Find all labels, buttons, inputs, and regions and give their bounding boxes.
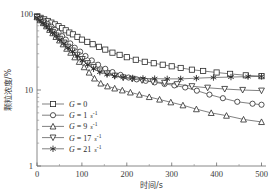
particle-concentration-chart: 0100200300400500110100 时间/s颗粒浓度/% G = 0G… [0,0,277,192]
data-point-marker [142,59,147,64]
legend-equals: = 9 [75,122,88,131]
legend-exponent: -1 [97,144,102,150]
data-point-marker [207,92,212,97]
legend-exponent: -1 [93,121,98,127]
legend-marker-square [50,101,55,106]
data-point-marker [189,67,194,72]
x-tick-label: 500 [255,169,268,179]
data-point-marker [214,70,219,75]
data-point-marker [85,39,90,44]
data-point-marker [235,99,240,104]
data-point-marker [250,101,255,106]
data-point-marker [117,52,122,57]
x-tick-label: 400 [210,169,223,179]
legend-exponent: -1 [97,133,102,139]
data-point-marker [90,42,95,47]
y-tick-label: 1 [29,161,33,171]
legend-equals: = 21 [75,145,92,154]
legend-label[interactable]: G = 17s-1 [69,133,102,143]
data-point-marker [133,57,138,62]
y-tick-label: 10 [25,85,34,95]
data-point-marker [160,62,165,67]
legend-label[interactable]: G = 0 [69,100,87,109]
x-tick-label: 0 [35,169,39,179]
data-point-marker [151,61,156,66]
legend-equals: = 0 [75,100,88,109]
x-tick-label: 200 [120,169,133,179]
data-point-marker [79,37,84,42]
legend-equals: = 1 [75,111,88,120]
data-point-marker [259,102,264,107]
y-tick-label: 100 [20,9,33,19]
y-axis-title: 颗粒浓度/% [3,68,13,111]
data-point-marker [124,55,129,60]
data-point-marker [96,44,101,49]
legend-label[interactable]: G = 21s-1 [69,144,102,154]
legend-marker-circle [50,113,55,118]
legend-equals: = 17 [75,134,92,143]
x-axis-title: 时间/s [140,180,163,190]
x-tick-label: 300 [165,169,178,179]
x-tick-label: 100 [76,169,89,179]
chart-svg: 0100200300400500110100 时间/s颗粒浓度/% G = 0G… [0,0,277,192]
data-point-marker [201,68,206,73]
data-point-marker [110,50,115,55]
data-point-marker [178,65,183,70]
data-point-marker [169,64,174,69]
data-point-marker [220,96,225,101]
data-point-marker [103,47,108,52]
data-point-marker [194,88,199,93]
legend-exponent: -1 [93,110,98,116]
